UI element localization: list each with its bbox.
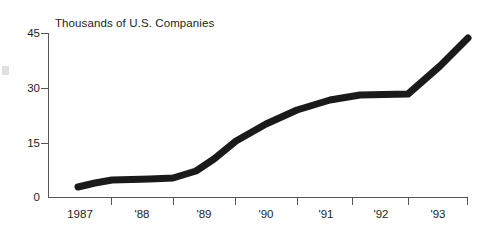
line-chart: Thousands of U.S. Companies 45 30 15 0 1…: [0, 0, 491, 236]
y-axis-label-15: 15: [14, 137, 40, 149]
x-axis-label-89: '89: [197, 208, 212, 220]
x-axis-label-88: '88: [135, 208, 150, 220]
x-axis-label-92: '92: [374, 208, 389, 220]
y-axis-label-30: 30: [14, 82, 40, 94]
x-axis-label-91: '91: [319, 208, 334, 220]
x-axis-label-90: '90: [259, 208, 274, 220]
x-axis-label-1987: 1987: [67, 208, 93, 220]
x-axis-ticks: [112, 197, 468, 205]
chart-title: Thousands of U.S. Companies: [55, 17, 214, 29]
y-axis-label-0: 0: [14, 191, 40, 203]
data-series-line: [78, 38, 468, 187]
y-axis-ticks: [41, 34, 48, 144]
y-axis-label-45: 45: [14, 27, 40, 39]
chart-canvas: [0, 0, 491, 236]
x-axis-label-93: '93: [431, 208, 446, 220]
